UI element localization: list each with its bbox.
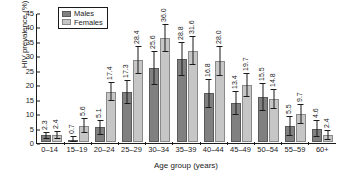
error-bar-cap-top [206,79,212,80]
bar-column[interactable]: 2.4 [323,14,333,142]
error-bar-cap-top [217,46,223,47]
bar-value-label: 0.7 [68,124,75,134]
error-bar-cap-top [151,51,157,52]
legend: Males Females [58,7,108,29]
bar-value-label: 4.6 [312,108,319,118]
x-tick-label: 60+ [309,146,336,154]
bar-column[interactable]: 28.8 [177,14,187,142]
error-bar [127,80,128,104]
error-bar-cap-bottom [206,107,212,108]
bar-group: 2.32.4 [38,14,65,142]
error-bar-cap-top [70,136,76,137]
legend-label-females: Females [74,19,103,27]
bar-column[interactable]: 5.1 [95,14,105,142]
plot-area: 051015202530354045 2.32.40.75.65.117.417… [36,14,336,144]
bar-column[interactable]: 31.6 [188,14,198,142]
error-bar [100,120,101,134]
error-bar-cap-bottom [287,135,293,136]
y-tick-label: 15 [18,97,34,105]
y-tick-label: 30 [18,54,34,62]
error-bar-cap-bottom [70,141,76,142]
error-bar-cap-bottom [81,132,87,133]
bar-value-label: 31.6 [188,21,195,35]
error-bar-cap-bottom [179,75,185,76]
error-bar [219,46,220,76]
error-bar-cap-top [179,42,185,43]
error-bar-cap-bottom [233,114,239,115]
error-bar [208,79,209,108]
error-bar [289,116,290,136]
bar-column[interactable]: 15.5 [258,14,268,142]
error-bar-cap-bottom [190,64,196,65]
bar-column[interactable]: 17.3 [122,14,132,142]
error-bar [57,131,58,139]
bar-column[interactable]: 4.6 [312,14,322,142]
error-bar-cap-top [287,116,293,117]
error-bar-cap-bottom [151,84,157,85]
y-tick-label: 40 [18,25,34,33]
error-bar-cap-top [54,131,60,132]
error-bar-cap-bottom [124,103,130,104]
x-tick-label: 55–59 [281,146,308,154]
error-bar [46,132,47,140]
bar-group: 0.75.6 [65,14,92,142]
error-bar-cap-top [298,104,304,105]
bar-column[interactable]: 5.5 [285,14,295,142]
bar-value-label: 5.5 [285,104,292,114]
x-tick-label: 30–34 [145,146,172,154]
error-bar [73,136,74,142]
error-bar-cap-top [260,83,266,84]
bar-value-label: 17.3 [122,65,129,79]
bar-value-label: 28.0 [215,30,222,44]
bar-column[interactable]: 16.8 [204,14,214,142]
bar-value-label: 17.4 [106,67,113,81]
bar-value-label: 14.8 [269,74,276,88]
bar-column[interactable]: 19.7 [242,14,252,142]
error-bar-cap-bottom [162,51,168,52]
bar-column[interactable]: 2.3 [41,14,51,142]
bar-group: 25.636.0 [146,14,173,142]
y-tick-mark [37,144,40,145]
bar-column[interactable]: 0.7 [68,14,78,142]
x-tick-label: 45–49 [227,146,254,154]
error-bar [316,120,317,137]
bar-column[interactable]: 13.4 [231,14,241,142]
x-axis-title: Age group (years) [36,161,336,170]
bar-column[interactable]: 28.4 [133,14,143,142]
bar-value-label: 5.1 [95,108,102,118]
error-bar-cap-top [124,80,130,81]
error-bar-cap-bottom [217,75,223,76]
x-axis-tick-labels: 0–1415–1920–2425–2930–3435–3940–4445–495… [36,146,336,154]
bar-group: 13.419.7 [228,14,255,142]
bar-column[interactable]: 17.4 [106,14,116,142]
bar-value-label: 36.0 [160,8,167,22]
legend-swatch-males-icon [62,11,71,17]
y-tick-label: 5 [18,126,34,134]
x-tick-label: 20–24 [91,146,118,154]
bar-column[interactable]: 36.0 [160,14,170,142]
x-tick-label: 50–54 [254,146,281,154]
bar-column[interactable]: 2.4 [52,14,62,142]
error-bar-cap-top [314,120,320,121]
error-bar-cap-bottom [314,136,320,137]
error-bar-cap-bottom [97,134,103,135]
error-bar-cap-bottom [108,100,114,101]
bar-females[interactable] [160,38,170,142]
error-bar-cap-bottom [54,138,60,139]
bar-column[interactable]: 28.0 [215,14,225,142]
bar-group: 5.117.4 [92,14,119,142]
bar-column[interactable]: 25.6 [149,14,159,142]
legend-swatch-females-icon [62,19,71,25]
error-bar-cap-top [97,120,103,121]
bar-group: 5.59.7 [282,14,309,142]
bar-value-label: 2.4 [52,120,59,130]
bar-column[interactable]: 5.6 [79,14,89,142]
bar-value-label: 2.4 [323,118,330,128]
error-bar-cap-top [81,118,87,119]
bar-value-label: 28.4 [133,30,140,44]
bar-group: 17.328.4 [119,14,146,142]
bar-column[interactable]: 14.8 [269,14,279,142]
x-tick-label: 40–44 [200,146,227,154]
y-tick-label: 45 [18,10,34,18]
bar-column[interactable]: 9.7 [296,14,306,142]
